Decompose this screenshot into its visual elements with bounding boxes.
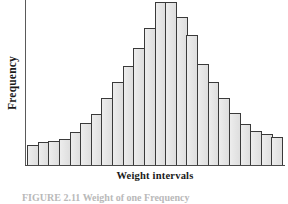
y-axis-title: Frequency <box>0 0 24 166</box>
x-axis-title: Weight intervals <box>25 170 285 181</box>
plot-area <box>25 0 285 166</box>
y-axis-line <box>25 0 26 166</box>
x-axis-line <box>25 165 285 166</box>
histogram-bars <box>27 0 283 165</box>
histogram-bar <box>271 137 283 165</box>
figure-caption: FIGURE 2.11 Weight of one Frequency <box>22 192 272 204</box>
y-axis-title-label: Frequency <box>6 56 18 110</box>
histogram-figure: Frequency Weight intervals FIGURE 2.11 W… <box>0 0 288 204</box>
